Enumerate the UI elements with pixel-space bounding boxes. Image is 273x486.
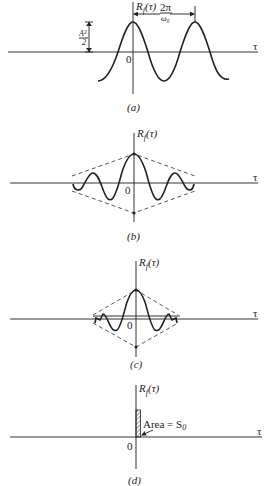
period-denominator: ω₀ — [161, 14, 170, 23]
origin-label: 0 — [125, 184, 131, 196]
panel-d: Area = S0 Rf(τ) τ 0 (d) — [10, 382, 262, 486]
r-axis-label: Rf(τ) — [135, 0, 157, 15]
r-axis-label: Rf(τ) — [136, 127, 158, 142]
r-axis-label: Rf(τ) — [138, 382, 160, 397]
tau-label: τ — [253, 171, 258, 183]
area-pointer-arrow — [142, 430, 153, 435]
panel-b: Rf(τ) τ 0 (b) — [10, 127, 258, 243]
autocorrelation-figure: A² 2 2π ω₀ Rf(τ) τ 0 (a) Rf(τ) τ 0 (b) — [0, 0, 273, 486]
panel-c: Rf(τ) τ 0 (c) — [10, 256, 258, 371]
caption-c: (c) — [130, 358, 143, 371]
caption-b: (b) — [127, 230, 140, 243]
impulse-bar — [136, 410, 141, 437]
tau-label: τ — [253, 307, 258, 319]
amplitude-numerator: A² — [78, 29, 87, 38]
caption-d: (d) — [128, 474, 141, 486]
caption-a: (a) — [127, 101, 140, 114]
origin-label: 0 — [127, 319, 133, 331]
origin-label: 0 — [126, 53, 132, 65]
tau-label: τ — [257, 425, 262, 437]
period-numerator: 2π — [160, 1, 172, 13]
r-axis-label: Rf(τ) — [138, 256, 160, 271]
origin-label: 0 — [127, 440, 133, 452]
area-label: Area = S0 — [143, 418, 186, 432]
amplitude-denominator: 2 — [82, 38, 86, 47]
panel-a: A² 2 2π ω₀ Rf(τ) τ 0 (a) — [8, 0, 258, 114]
tau-label: τ — [253, 40, 258, 52]
